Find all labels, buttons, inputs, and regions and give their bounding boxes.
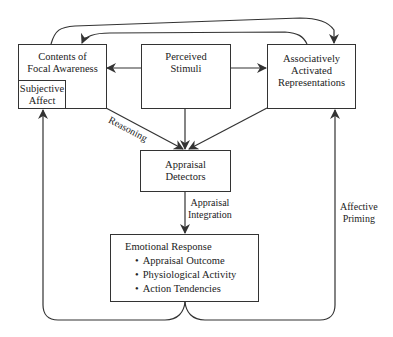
emotional-item: Physiological Activity	[135, 269, 258, 281]
associative-representations-box: Associatively Activated Representations	[267, 44, 356, 109]
focal-line2: Focal Awareness	[19, 63, 106, 75]
integration-line1: Appraisal	[188, 197, 232, 209]
appraisal-integration-label: Appraisal Integration	[188, 197, 232, 221]
perceived-stimuli-box: Perceived Stimuli	[141, 44, 231, 109]
assoc-line1: Associatively	[268, 53, 355, 65]
assoc-line3: Representations	[268, 77, 355, 89]
affective-priming-label: Affective Priming	[340, 201, 378, 225]
emotional-item: Appraisal Outcome	[135, 255, 258, 267]
subjective-affect-box: Subjective Affect	[18, 80, 66, 109]
detectors-line1: Appraisal	[141, 159, 230, 171]
focal-line1: Contents of	[19, 51, 106, 63]
emotional-title: Emotional Response	[125, 241, 258, 253]
integration-line2: Integration	[188, 209, 232, 221]
emotional-item: Action Tendencies	[135, 283, 258, 295]
appraisal-detectors-box: Appraisal Detectors	[140, 150, 231, 192]
assoc-line2: Activated	[268, 65, 355, 77]
focal-awareness-box: Contents of Focal Awareness Subjective A…	[18, 44, 107, 109]
subjective-line1: Subjective	[19, 83, 65, 95]
subjective-line2: Affect	[19, 95, 65, 107]
priming-line1: Affective	[340, 201, 378, 213]
priming-line2: Priming	[340, 213, 378, 225]
stimuli-line1: Perceived	[142, 51, 230, 63]
stimuli-line2: Stimuli	[142, 63, 230, 75]
emotional-response-box: Emotional Response Appraisal Outcome Phy…	[110, 234, 259, 302]
detectors-line2: Detectors	[141, 171, 230, 183]
emotional-items: Appraisal Outcome Physiological Activity…	[125, 255, 258, 295]
